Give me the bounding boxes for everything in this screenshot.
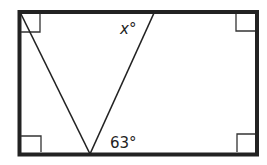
right-angle-marker-top-left xyxy=(21,14,40,32)
segment-left xyxy=(21,14,90,154)
right-angle-marker-top-right xyxy=(236,14,255,31)
right-angle-marker-bottom-left xyxy=(21,136,41,152)
angle-label-63: 63° xyxy=(110,134,137,152)
angle-label-x: x° xyxy=(119,20,136,38)
right-angle-marker-bottom-right xyxy=(237,134,255,152)
geometry-diagram: x° 63° xyxy=(0,0,267,165)
